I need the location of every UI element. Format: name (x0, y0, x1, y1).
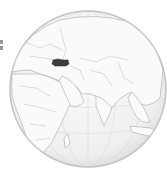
globe-map (0, 0, 167, 176)
australia (146, 148, 165, 162)
highlighted-country-turkey (52, 59, 69, 66)
